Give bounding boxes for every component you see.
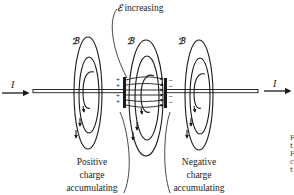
magnetic-field-label-right: ℬ bbox=[178, 36, 185, 46]
negative-charges: – – – – bbox=[169, 77, 173, 105]
magnetic-field-label-left: ℬ bbox=[72, 36, 79, 46]
negative-charge-label: Negative charge accumulating bbox=[166, 156, 232, 195]
increasing-text: increasing bbox=[122, 3, 163, 13]
positive-charge-label: Positive charge accumulating bbox=[60, 156, 124, 195]
magnetic-field-loops-right bbox=[185, 40, 213, 150]
electric-field-increasing-label: ℰ increasing bbox=[117, 3, 163, 13]
capacitor-plate-negative bbox=[164, 78, 167, 108]
magnetic-field-loops-middle bbox=[129, 40, 163, 156]
capacitor-charging-diagram bbox=[0, 0, 294, 195]
current-label-left: I bbox=[11, 80, 14, 90]
caption-fragment: F t F c t bbox=[290, 134, 294, 174]
current-label-right: I bbox=[273, 79, 276, 89]
positive-charges: + + + + bbox=[116, 77, 120, 105]
magnetic-field-label-middle: ℬ bbox=[127, 36, 134, 46]
capacitor-plate-positive bbox=[123, 77, 126, 108]
electric-field-lines bbox=[126, 77, 163, 107]
